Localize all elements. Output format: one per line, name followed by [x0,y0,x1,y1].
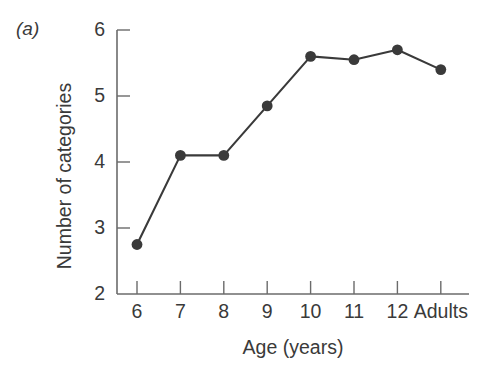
data-point-marker [305,51,316,62]
data-point-marker [218,150,229,161]
data-line [137,50,441,245]
data-point-marker [175,150,186,161]
x-axis-tick-label: Adults [401,302,481,322]
data-point-marker [132,239,143,250]
chart-figure: (a) Number of categories Age (years) 654… [0,0,504,378]
data-point-marker [349,54,360,65]
data-point-marker [262,101,273,112]
y-axis-tick-label: 6 [75,20,105,40]
y-axis-tick-label: 2 [75,284,105,304]
y-axis-tick-label: 4 [75,152,105,172]
data-point-marker [435,64,446,75]
data-point-marker [392,44,403,55]
y-axis-tick-label: 5 [75,86,105,106]
y-axis-tick-label: 3 [75,218,105,238]
